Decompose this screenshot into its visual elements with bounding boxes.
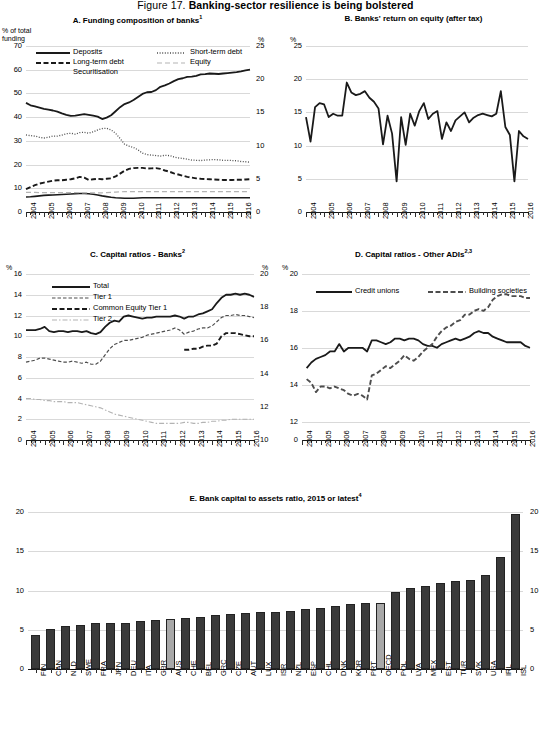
x-axis-tick-mark [77, 440, 78, 443]
x-axis-tick-mark [151, 212, 152, 217]
series-line [26, 168, 250, 189]
x-axis-tick-mark [486, 669, 487, 673]
legend-label-securitisation: Securitisation [73, 67, 118, 76]
x-axis-tick-mark [26, 440, 27, 445]
x-axis-tick-mark [414, 440, 415, 445]
x-axis-tick-mark [246, 669, 247, 673]
y-axis-tick-label: 30 [0, 137, 22, 145]
x-axis-tick-mark [111, 212, 112, 215]
bar [406, 588, 416, 669]
y-axis-tick-label: 5 [0, 626, 24, 634]
panel-a-left-unit: % of total funding [2, 27, 52, 43]
legend-swatch-building-societies [428, 289, 466, 295]
legend-swatch-short-term-debt [157, 50, 185, 56]
x-axis-tick-mark [320, 212, 321, 215]
x-axis-tick-mark [223, 212, 224, 217]
y-axis-tick-label: 50 [0, 89, 22, 97]
x-axis-tick-mark [231, 669, 232, 673]
x-axis-tick-mark [426, 669, 427, 673]
x-axis-tick-mark [175, 440, 176, 445]
series-line [26, 192, 250, 193]
y-axis-tick-label-right: 15 [530, 547, 551, 555]
x-axis-tick-mark [111, 669, 112, 673]
x-axis-tick-mark [502, 440, 503, 443]
x-axis-tick-mark [141, 669, 142, 673]
x-axis-tick-mark [501, 669, 502, 673]
panel-b-title: B. Banks' return on equity (after tax) [276, 14, 551, 23]
y-axis-tick-label: 14 [276, 381, 298, 389]
y-axis-tick-label: 20 [0, 508, 24, 516]
x-axis-tick-mark [134, 212, 135, 217]
legend-swatch-credit-unions [316, 289, 352, 295]
legend-label-long-term-debt: Long-term debt [73, 57, 124, 66]
x-axis-tick-mark [241, 212, 242, 217]
bar-category-label: ISL [519, 665, 528, 676]
bar [316, 608, 326, 669]
x-axis-tick-mark [501, 212, 502, 215]
legend-swatch-tier-2 [52, 317, 90, 323]
x-axis-tick-mark [507, 440, 508, 445]
series-line [26, 194, 250, 199]
x-axis-tick-mark [390, 440, 391, 443]
x-axis-tick-mark [523, 212, 524, 217]
y-axis-tick-label: 2 [0, 415, 22, 423]
x-axis-tick-mark [433, 212, 434, 217]
x-axis-tick-mark [194, 440, 195, 445]
series-line [26, 399, 254, 424]
x-axis-tick-mark [57, 212, 58, 215]
x-axis-tick-mark [306, 669, 307, 673]
y-axis-tick-label: 10 [0, 184, 22, 192]
y-axis-tick-label: 0 [0, 665, 24, 673]
y-axis-tick-label-right: 10 [530, 587, 551, 595]
x-axis-tick-mark [183, 212, 184, 215]
x-axis-tick-mark [205, 212, 206, 217]
x-axis-tick-mark [381, 669, 382, 673]
x-axis-tick-mark [465, 440, 466, 443]
panel-d: D. Capital ratios - Other ADIs2,3 % 2018… [276, 248, 551, 478]
legend-swatch-common-equity-tier-1 [52, 306, 90, 312]
x-axis-tick-mark [411, 669, 412, 673]
bar [271, 612, 281, 669]
bar [421, 586, 431, 669]
figure-title: Figure 17. Banking-sector resilience is … [0, 0, 551, 11]
x-axis-tick-mark [212, 440, 213, 445]
series-layer [26, 46, 250, 212]
x-axis-tick-mark [396, 669, 397, 673]
x-axis-tick-mark [62, 212, 63, 217]
x-axis-tick-mark [116, 212, 117, 217]
x-axis-tick-mark [291, 669, 292, 673]
x-axis-tick-mark [353, 440, 354, 443]
x-axis-tick-mark [415, 212, 416, 217]
bar [466, 580, 476, 669]
y-axis-tick-label: 12 [276, 418, 298, 426]
x-axis-tick-mark [392, 212, 393, 215]
x-axis-tick-mark [471, 669, 472, 673]
y-axis-tick-label: 60 [0, 66, 22, 74]
x-axis-tick-mark [505, 212, 506, 217]
x-axis-tick-mark [165, 212, 166, 215]
x-axis-tick-mark [351, 669, 352, 673]
figure-title-text: Banking-sector resilience is being bolst… [189, 0, 414, 11]
x-axis-tick-mark [114, 440, 115, 443]
y-axis-tick-label: 40 [0, 113, 22, 121]
x-axis-tick-mark [483, 212, 484, 215]
y-axis-tick-label: 0 [0, 208, 22, 216]
x-axis-tick-mark [451, 440, 452, 445]
x-axis-tick-mark [187, 212, 188, 217]
x-axis-tick-mark [483, 440, 484, 443]
x-axis-tick-mark [395, 440, 396, 445]
x-axis-tick-mark [219, 212, 220, 215]
x-axis-tick-mark [119, 440, 120, 445]
x-axis-tick-mark [98, 212, 99, 217]
y-axis-tick-label: 25 [280, 42, 302, 50]
panel-d-title-superscript: 2,3 [464, 248, 472, 254]
y-axis-tick-label: 10 [280, 142, 302, 150]
legend-swatch-tier-1 [52, 295, 90, 301]
legend-label-credit-unions: Credit unions [355, 286, 399, 295]
series-line [26, 128, 250, 162]
legend-label-tier-2: Tier 2 [93, 314, 112, 323]
x-axis-tick-mark [276, 669, 277, 673]
x-axis-tick-mark [516, 669, 517, 673]
bar [511, 514, 521, 669]
x-axis-tick-mark [446, 212, 447, 215]
